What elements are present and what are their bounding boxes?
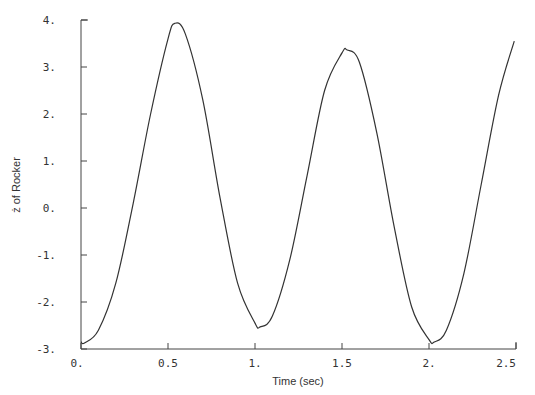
x-ticks: 0.0.51.1.52.2.5	[70, 343, 516, 370]
x-tick-label: 0.5	[158, 357, 178, 370]
y-ticks: -3.-2.-1.0.1.2.3.4.	[36, 14, 87, 356]
y-axis-label: ż of Rocker	[10, 157, 22, 213]
x-axis-label: Time (sec)	[272, 375, 324, 387]
y-axis	[81, 20, 88, 349]
y-tick-label: -3.	[36, 343, 56, 356]
y-tick-label: 0.	[43, 202, 56, 215]
y-tick-label: 4.	[43, 14, 56, 27]
data-line	[81, 23, 514, 344]
y-tick-label: 2.	[43, 108, 56, 121]
x-tick-label: 1.5	[332, 357, 352, 370]
chart: -3.-2.-1.0.1.2.3.4. 0.0.51.1.52.2.5 Time…	[0, 0, 535, 395]
y-tick-label: 1.	[43, 155, 56, 168]
x-tick-label: 1.	[248, 357, 261, 370]
x-tick-label: 2.5	[496, 357, 516, 370]
x-tick-label: 0.	[70, 357, 83, 370]
x-tick-label: 2.	[422, 357, 435, 370]
y-tick-label: -2.	[36, 296, 56, 309]
y-tick-label: -1.	[36, 249, 56, 262]
y-tick-label: 3.	[43, 61, 56, 74]
x-axis	[81, 342, 516, 349]
